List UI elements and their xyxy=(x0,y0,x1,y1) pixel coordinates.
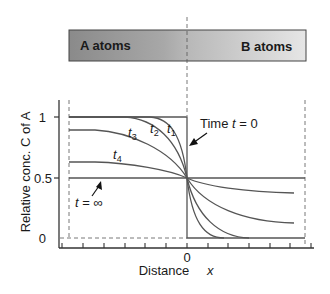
curves xyxy=(69,117,305,238)
x-axis-label: Distance xyxy=(139,263,190,278)
x-ticks xyxy=(62,243,311,248)
y-axis-label: Relative conc. C of A xyxy=(18,111,33,232)
t-infinity-annotation: t = ∞ xyxy=(75,181,103,210)
ytick-1: 1 xyxy=(39,110,46,125)
axes: 1 0.5 0 0 Distance x Relative conc. C of… xyxy=(18,100,314,278)
a-atoms-label: A atoms xyxy=(80,38,131,53)
ytick-0: 0 xyxy=(39,231,46,246)
x-axis-var: x xyxy=(206,263,214,278)
label-t3: t3 xyxy=(128,125,137,142)
ytick-0-5: 0.5 xyxy=(34,171,52,186)
label-t4: t4 xyxy=(113,147,122,164)
diffusion-diagram: A atoms B atoms 1 0.5 0 xyxy=(0,0,330,294)
b-atoms-label: B atoms xyxy=(241,39,292,54)
curve-t3 xyxy=(69,130,294,223)
svg-text:t = ∞: t = ∞ xyxy=(75,195,103,210)
label-t2: t2 xyxy=(150,121,159,138)
label-t1: t1 xyxy=(167,121,176,138)
atom-bar: A atoms B atoms xyxy=(69,30,306,61)
arrow-head-icon xyxy=(189,138,198,146)
time-zero-annotation: Time t = 0 xyxy=(189,116,258,146)
svg-text:Time t = 0: Time t = 0 xyxy=(200,116,258,131)
